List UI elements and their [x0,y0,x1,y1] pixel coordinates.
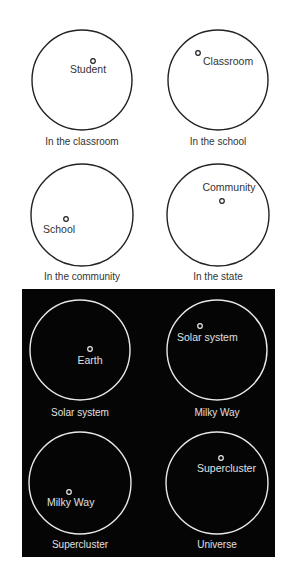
marker-label: Solar system [177,331,238,343]
scale-panel-community: SchoolIn the community [31,164,133,282]
boundary-circle [168,30,268,130]
boundary-circle [166,432,268,534]
panel-caption: In the classroom [45,136,118,147]
marker-label: Milky Way [47,496,95,508]
panel-caption: In the school [190,136,247,147]
marker-label: Classroom [203,55,253,67]
boundary-circle [167,300,267,400]
scale-panel-milky-way: Solar systemMilky Way [167,300,267,418]
boundary-circle [32,30,132,130]
marker-label: Community [202,181,256,193]
scale-panel-solar-system: EarthSolar system [30,300,130,418]
position-marker-icon [220,199,225,204]
panel-caption: Milky Way [194,407,239,418]
boundary-circle [29,432,131,534]
position-marker-icon [196,51,201,56]
position-marker-icon [198,324,203,329]
scale-panel-school: ClassroomIn the school [168,30,268,147]
marker-label: Student [70,63,106,75]
position-marker-icon [67,490,72,495]
nested-scale-diagram: StudentIn the classroomClassroomIn the s… [0,0,287,588]
position-marker-icon [64,217,69,222]
position-marker-icon [88,347,93,352]
boundary-circle [167,164,269,266]
scale-panel-supercluster: Milky WaySupercluster [29,432,131,550]
marker-label: Supercluster [197,462,256,474]
panel-caption: Solar system [51,407,109,418]
panel-caption: Universe [197,539,237,550]
marker-label: Earth [77,354,102,366]
scale-panel-classroom: StudentIn the classroom [32,30,132,147]
panel-caption: In the community [44,271,120,282]
panel-caption: In the state [193,271,243,282]
position-marker-icon [219,456,224,461]
boundary-circle [30,300,130,400]
scale-panel-universe: SuperclusterUniverse [166,432,268,550]
marker-label: School [43,223,75,235]
boundary-circle [31,164,133,266]
panel-caption: Supercluster [52,539,109,550]
scale-panel-state: CommunityIn the state [167,164,269,282]
